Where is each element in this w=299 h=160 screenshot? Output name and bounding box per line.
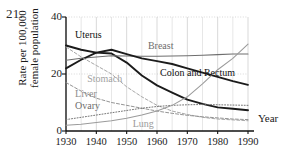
series-label-stomach: Stomach [87, 74, 122, 84]
figure-root: 21. Rate per 100,000 female population 0… [0, 0, 299, 160]
chart-plot-area [0, 0, 299, 160]
series-label-lung: Lung [133, 119, 154, 129]
series-label-colon-and-rectum: Colon and Rectum [160, 68, 235, 78]
series-label-liver: Liver [75, 89, 97, 99]
series-label-uterus: Uterus [75, 30, 102, 40]
series-label-breast: Breast [148, 41, 174, 51]
series-label-ovary: Ovary [75, 101, 100, 111]
